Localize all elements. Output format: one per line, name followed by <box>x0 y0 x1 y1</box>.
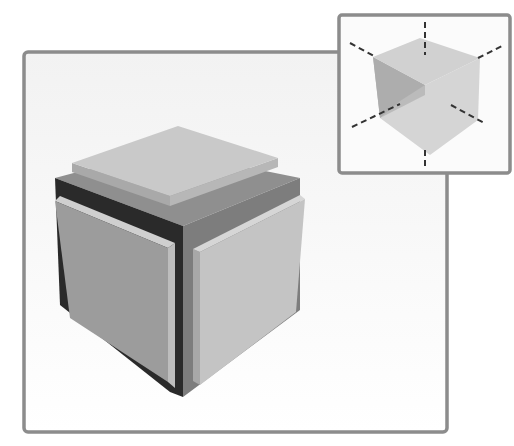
inset-panel <box>339 15 510 173</box>
right-plate-side <box>193 249 200 385</box>
left-plate-side <box>168 243 175 388</box>
diagram-canvas <box>0 0 514 446</box>
